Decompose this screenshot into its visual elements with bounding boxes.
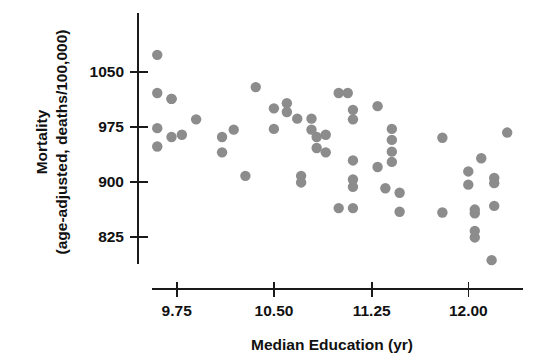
data-point <box>166 94 176 104</box>
y-tick-label-3: 825 <box>98 228 124 245</box>
y-tick-label-1: 975 <box>98 118 124 135</box>
data-point <box>348 203 358 213</box>
data-point <box>296 171 306 181</box>
data-point <box>292 113 302 123</box>
data-point <box>387 157 397 167</box>
y-axis-title-line1: Mortality <box>33 109 50 174</box>
data-point <box>321 130 331 140</box>
y-tick-marks <box>130 72 148 237</box>
data-point <box>387 124 397 134</box>
data-point <box>394 188 404 198</box>
data-point <box>152 88 162 98</box>
y-axis-title-line2: (age-adjusted, deaths/100,000) <box>53 30 70 255</box>
data-point <box>269 124 279 134</box>
data-point <box>489 201 499 211</box>
data-point <box>437 133 447 143</box>
data-point <box>470 232 480 242</box>
data-point <box>152 50 162 60</box>
data-point <box>166 132 176 142</box>
x-axis-title: Median Education (yr) <box>251 336 413 353</box>
data-point <box>463 166 473 176</box>
data-point <box>387 146 397 156</box>
data-point <box>437 207 447 217</box>
data-point <box>348 114 358 124</box>
data-point <box>217 147 227 157</box>
x-tick-labels: 9.75 10.50 11.25 12.00 <box>162 302 488 319</box>
x-tick-label-1: 10.50 <box>255 302 294 319</box>
data-point <box>321 147 331 157</box>
data-point <box>152 141 162 151</box>
data-point <box>343 88 353 98</box>
data-point <box>380 183 390 193</box>
data-point <box>348 105 358 115</box>
y-tick-label-0: 1050 <box>90 63 124 80</box>
data-point <box>372 162 382 172</box>
data-point <box>251 82 261 92</box>
data-point <box>334 203 344 213</box>
data-point <box>372 101 382 111</box>
data-point <box>463 179 473 189</box>
data-point <box>152 123 162 133</box>
data-points-layer <box>152 50 512 266</box>
x-tick-label-2: 11.25 <box>353 302 391 319</box>
data-point <box>191 114 201 124</box>
scatter-plot-figure: 1050 975 900 825 Mortality (age-adjusted… <box>0 0 540 362</box>
data-point <box>311 132 321 142</box>
data-point <box>470 208 480 218</box>
data-point <box>348 182 358 192</box>
plot-canvas: 1050 975 900 825 Mortality (age-adjusted… <box>0 0 540 362</box>
data-point <box>394 207 404 217</box>
y-tick-label-2: 900 <box>98 173 124 190</box>
y-axis-title: Mortality (age-adjusted, deaths/100,000) <box>33 30 70 255</box>
data-point <box>269 103 279 113</box>
data-point <box>240 171 250 181</box>
data-point <box>387 135 397 145</box>
data-point <box>476 153 486 163</box>
data-point <box>217 132 227 142</box>
data-point <box>502 127 512 137</box>
x-tick-label-3: 12.00 <box>449 302 488 319</box>
data-point <box>489 178 499 188</box>
data-point <box>486 255 496 265</box>
x-tick-label-0: 9.75 <box>162 302 193 319</box>
data-point <box>311 143 321 153</box>
data-point <box>229 124 239 134</box>
y-tick-labels: 1050 975 900 825 <box>90 63 125 245</box>
data-point <box>306 113 316 123</box>
data-point <box>282 107 292 117</box>
data-point <box>334 88 344 98</box>
data-point <box>177 130 187 140</box>
data-point <box>348 155 358 165</box>
